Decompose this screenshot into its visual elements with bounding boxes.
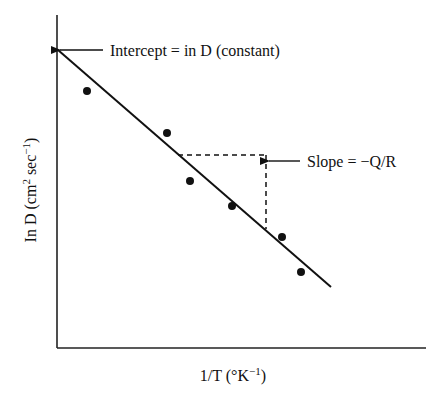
data-point — [163, 129, 171, 137]
data-point — [297, 268, 305, 276]
intercept-label: Intercept = in D (constant) — [110, 42, 280, 60]
data-points — [83, 87, 305, 276]
data-point — [228, 202, 236, 210]
fitted-line — [58, 50, 331, 287]
arrhenius-diffusion-chart: Intercept = in D (constant) Slope = −Q/R… — [0, 0, 446, 401]
x-axis-label: 1/T (°K−1) — [200, 365, 266, 385]
y-axis-label: In D (cm2 sec−1) — [20, 138, 40, 243]
data-point — [83, 87, 91, 95]
data-point — [278, 233, 286, 241]
data-point — [186, 177, 194, 185]
slope-label: Slope = −Q/R — [307, 153, 396, 171]
